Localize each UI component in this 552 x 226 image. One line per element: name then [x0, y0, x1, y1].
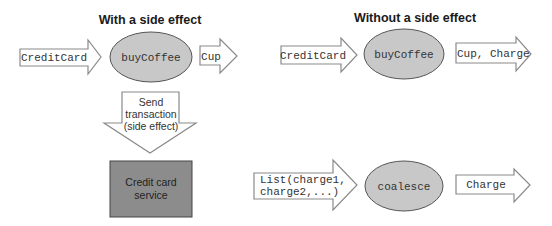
right-cup-charge-label: Cup, Charge — [457, 48, 530, 60]
coalesce-label: coalesce — [378, 181, 431, 193]
right-buycoffee-node: buyCoffee — [364, 29, 444, 79]
left-buycoffee-node: buyCoffee — [110, 32, 192, 82]
service-label-line1: Credit card — [125, 176, 177, 188]
left-cup-label: Cup — [201, 51, 221, 63]
side-effect-label-line2: transaction — [125, 108, 177, 120]
coalesce-node: coalesce — [365, 161, 443, 211]
credit-card-service-box: Credit card service — [110, 161, 192, 217]
service-label-line2: service — [134, 189, 167, 201]
charge-arrow: Charge — [456, 169, 530, 202]
list-charges-arrow: List(charge1, charge2,...) — [254, 160, 357, 210]
left-cup-arrow: Cup — [200, 39, 237, 73]
right-creditcard-arrow: CreditCard — [280, 38, 357, 72]
right-cup-charge-arrow: Cup, Charge — [456, 37, 531, 71]
side-effect-label-line3: (side effect) — [124, 120, 179, 132]
list-label-line1: List(charge1, — [260, 174, 346, 186]
side-effect-down-arrow: Send transaction (side effect) — [104, 92, 196, 153]
left-creditcard-arrow: CreditCard — [20, 40, 101, 74]
left-title: With a side effect — [99, 13, 203, 27]
side-effect-label-line1: Send — [139, 96, 164, 108]
left-creditcard-label: CreditCard — [21, 52, 87, 64]
diagram-canvas: With a side effect CreditCard buyCoffee … — [0, 0, 552, 226]
left-buycoffee-label: buyCoffee — [121, 52, 180, 64]
right-buycoffee-label: buyCoffee — [374, 49, 433, 61]
right-title: Without a side effect — [354, 11, 477, 25]
charge-label: Charge — [466, 179, 506, 191]
list-label-line2: charge2,...) — [260, 186, 339, 198]
right-creditcard-label: CreditCard — [280, 50, 346, 62]
